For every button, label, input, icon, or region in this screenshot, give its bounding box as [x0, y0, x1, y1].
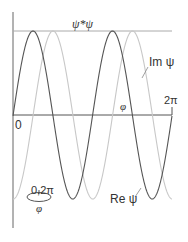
phi-label: φ — [120, 101, 126, 112]
two-pi-label: 2π — [164, 95, 178, 106]
im-psi-label: Im ψ — [149, 56, 174, 68]
re-psi-label: Re ψ — [110, 193, 137, 205]
wavefunction-diagram — [0, 0, 188, 242]
loop-phi-label: φ — [36, 203, 42, 214]
loop-range-label: 0,2π — [31, 185, 54, 196]
psi-star-psi-label: ψ*ψ — [72, 18, 93, 30]
zero-label: 0 — [15, 119, 22, 131]
